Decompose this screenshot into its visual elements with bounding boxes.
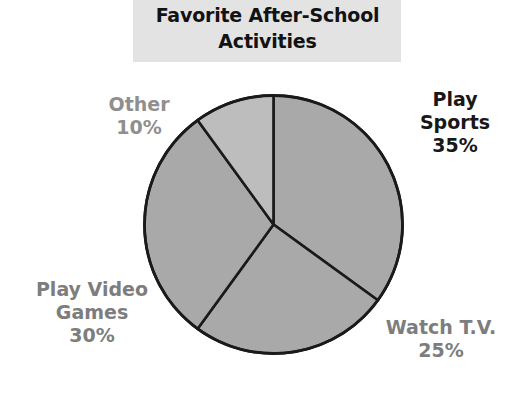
pie-chart-figure: Favorite After-School Activities Play Sp… <box>0 0 519 395</box>
slice-label-other: Other 10% <box>84 93 194 139</box>
slice-label-play-sports: Play Sports 35% <box>396 88 514 157</box>
slice-label-watch-tv: Watch T.V. 25% <box>368 316 514 362</box>
chart-title: Favorite After-School Activities <box>120 2 415 54</box>
slice-label-play-video-games: Play Video Games 30% <box>14 278 170 347</box>
